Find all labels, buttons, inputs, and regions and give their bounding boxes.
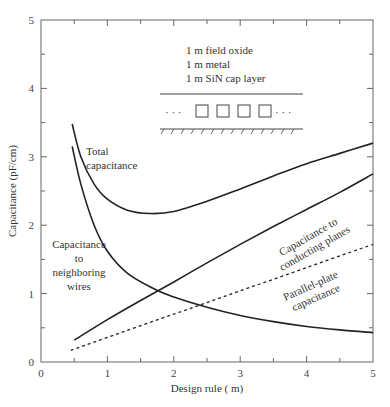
x-tick-label: 1 [105, 367, 111, 379]
y-tick-label: 3 [29, 151, 35, 163]
series-capacitance-to-conducting-planes [74, 174, 373, 340]
inset-structure-diagram: 1 m field oxide 1 m metal 1 m SiN cap la… [160, 44, 303, 134]
y-tick-label: 5 [29, 14, 35, 26]
inset-wire [196, 105, 208, 117]
svg-text:Total: Total [86, 145, 108, 157]
svg-text:neighboring: neighboring [52, 266, 106, 278]
y-tick-label: 1 [29, 288, 35, 300]
annotation-neighboring: Capacitance to neighboring wires [52, 238, 106, 292]
y-tick-label: 0 [29, 356, 35, 368]
y-tick-label: 4 [29, 82, 35, 94]
inset-wire [259, 105, 271, 117]
inset-wire [238, 105, 250, 117]
annotation-total: Total capacitance [86, 145, 137, 171]
svg-text:wires: wires [67, 280, 91, 292]
x-tick-label: 4 [304, 367, 310, 379]
inset-wire [217, 105, 229, 117]
x-axis-label: Design rule ( m) [171, 382, 244, 395]
y-axis-label: Capacitance (pF/cm) [6, 145, 19, 237]
x-tick-label: 2 [171, 367, 177, 379]
svg-text:capacitance: capacitance [86, 159, 137, 171]
x-tick-label: 3 [237, 367, 243, 379]
inset-dots-right: · · · [275, 106, 292, 118]
inset-label-cap-layer: 1 m SiN cap layer [186, 72, 266, 84]
svg-text:Capacitance: Capacitance [52, 238, 106, 250]
annotation-planes: Capacitance to conducting planes [270, 211, 352, 273]
x-tick-label: 5 [370, 367, 376, 379]
x-tick-label: 0 [38, 367, 44, 379]
inset-label-metal: 1 m metal [186, 58, 230, 70]
capacitance-chart: 012345012345 Design rule ( m) Capacitanc… [0, 0, 390, 407]
annotation-parallel-plate: Parallel-plate capacitance [281, 268, 345, 315]
inset-label-field-oxide: 1 m field oxide [186, 44, 253, 56]
inset-dots-left: · · · [165, 106, 182, 118]
svg-text:to: to [75, 252, 84, 264]
inset-ground-hatch [161, 129, 294, 134]
y-tick-label: 2 [29, 219, 35, 231]
